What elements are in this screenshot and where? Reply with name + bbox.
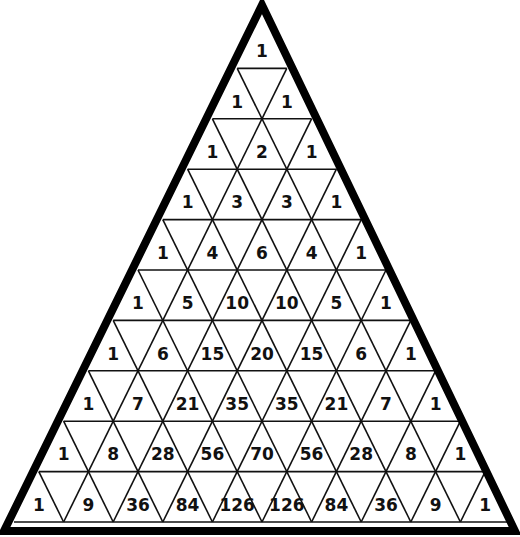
cell-value: 35 <box>275 394 299 414</box>
cell-value: 28 <box>349 444 373 464</box>
cell-value: 1 <box>380 293 392 313</box>
cell-value: 1 <box>281 92 293 112</box>
cell-value: 1 <box>405 344 417 364</box>
cell-value: 7 <box>132 394 144 414</box>
cell-value: 1 <box>206 142 218 162</box>
cell-value: 1 <box>182 192 194 212</box>
cell-value: 35 <box>225 394 249 414</box>
cell-value: 1 <box>231 92 243 112</box>
cell-value: 9 <box>82 495 94 515</box>
cell-value: 9 <box>430 495 442 515</box>
cell-value: 2 <box>256 142 268 162</box>
cell-value: 1 <box>157 243 169 263</box>
cell-value: 1 <box>306 142 318 162</box>
cell-value: 3 <box>281 192 293 212</box>
cell-value: 1 <box>256 41 268 61</box>
triangle-grid: 1111211331146411510105116152015611721353… <box>0 0 520 537</box>
cell-value: 1 <box>82 394 94 414</box>
cell-value: 6 <box>157 344 169 364</box>
cell-value: 6 <box>256 243 268 263</box>
cell-value: 6 <box>355 344 367 364</box>
cell-value: 8 <box>405 444 417 464</box>
cell-value: 36 <box>126 495 150 515</box>
cell-value: 15 <box>300 344 324 364</box>
cell-value: 1 <box>107 344 119 364</box>
cell-value: 1 <box>355 243 367 263</box>
cell-value: 84 <box>325 495 349 515</box>
cell-value: 10 <box>275 293 299 313</box>
cell-value: 7 <box>380 394 392 414</box>
cell-value: 3 <box>231 192 243 212</box>
cell-value: 21 <box>176 394 200 414</box>
cell-value: 70 <box>250 444 274 464</box>
cell-value: 21 <box>325 394 349 414</box>
pascal-triangle-diagram: 1111211331146411510105116152015611721353… <box>0 0 520 537</box>
cell-value: 36 <box>374 495 398 515</box>
cell-value: 10 <box>225 293 249 313</box>
cell-value: 4 <box>206 243 218 263</box>
cell-value: 1 <box>330 192 342 212</box>
cell-value: 126 <box>269 495 305 515</box>
cell-value: 56 <box>201 444 225 464</box>
cell-value: 56 <box>300 444 324 464</box>
cell-value: 1 <box>58 444 70 464</box>
cell-value: 4 <box>306 243 318 263</box>
cell-value: 1 <box>132 293 144 313</box>
cell-value: 126 <box>219 495 255 515</box>
cell-value: 15 <box>201 344 225 364</box>
cell-value: 8 <box>107 444 119 464</box>
cell-value: 20 <box>250 344 274 364</box>
cell-value: 1 <box>479 495 491 515</box>
cell-value: 1 <box>430 394 442 414</box>
cell-value: 1 <box>454 444 466 464</box>
cell-value: 28 <box>151 444 175 464</box>
cell-value: 1 <box>33 495 45 515</box>
cell-value: 5 <box>330 293 342 313</box>
cell-value: 5 <box>182 293 194 313</box>
cell-value: 84 <box>176 495 200 515</box>
